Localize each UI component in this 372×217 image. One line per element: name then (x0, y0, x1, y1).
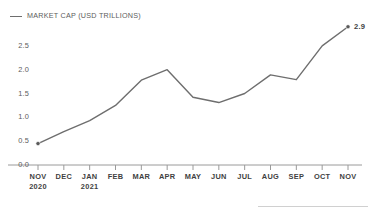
x-axis-year: 2020 (29, 182, 47, 192)
x-axis-month: NOV (340, 172, 357, 182)
x-axis-tick-label: JUN (211, 172, 227, 182)
x-axis-month: OCT (314, 172, 331, 182)
x-axis-month: AUG (262, 172, 279, 182)
x-axis-tick-labels: NOV2020DECJAN2021FEBMARAPRMAYJUNJULAUGSE… (0, 0, 372, 217)
x-axis-tick-label: SEP (288, 172, 304, 182)
x-axis-tick-label: JUL (237, 172, 252, 182)
x-axis-month: JAN (81, 172, 99, 182)
x-axis-month: MAY (185, 172, 202, 182)
x-axis-tick-label: DEC (56, 172, 73, 182)
end-value-label: 2.9 (354, 23, 365, 31)
x-axis-month: NOV (29, 172, 47, 182)
x-axis-month: JUN (211, 172, 227, 182)
x-axis-year: 2021 (81, 182, 99, 192)
x-axis-month: SEP (288, 172, 304, 182)
x-axis-tick-label: OCT (314, 172, 331, 182)
x-axis-tick-label: FEB (108, 172, 124, 182)
x-axis-tick-label: JAN2021 (81, 172, 99, 192)
x-axis-month: DEC (56, 172, 73, 182)
x-axis-month: JUL (237, 172, 252, 182)
x-axis-month: APR (159, 172, 176, 182)
x-axis-tick-label: APR (159, 172, 176, 182)
x-axis-month: MAR (132, 172, 150, 182)
footer-divider (258, 206, 368, 207)
x-axis-tick-label: NOV2020 (29, 172, 47, 192)
x-axis-tick-label: MAR (132, 172, 150, 182)
x-axis-tick-label: NOV (340, 172, 357, 182)
x-axis-month: FEB (108, 172, 124, 182)
x-axis-tick-label: AUG (262, 172, 279, 182)
x-axis-tick-label: MAY (185, 172, 202, 182)
